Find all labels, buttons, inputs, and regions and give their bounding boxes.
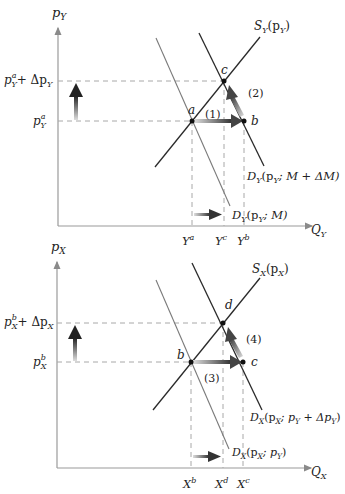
top-panel-y-market: pY paY+ ΔpY paY SY(pY) c a b (1) (2) DY(… xyxy=(4,5,339,248)
point-a xyxy=(190,119,195,124)
bottom-supply-curve xyxy=(153,278,260,410)
step-4-label: (4) xyxy=(246,333,262,346)
top-y-axis-label: pY xyxy=(52,5,67,22)
top-x-axis-label: QY xyxy=(311,223,327,239)
point-b-label-bottom: b xyxy=(177,348,185,362)
point-c-label-top: c xyxy=(221,63,228,77)
top-step2-arrow xyxy=(226,85,244,117)
bottom-panel-x-market: pX pbX+ ΔpX pbX SX(pX) d b c (3) (4) DX(… xyxy=(4,239,341,491)
step-2-label: (2) xyxy=(248,87,264,100)
point-b-top xyxy=(242,119,247,124)
top-price-high-label: paY+ ΔpY xyxy=(4,71,53,89)
diagram-canvas: pY paY+ ΔpY paY SY(pY) c a b (1) (2) DY(… xyxy=(0,0,345,494)
tick-Xd: Xd xyxy=(214,476,228,491)
bottom-price-high-label: pbX+ ΔpX xyxy=(4,313,54,331)
bottom-x-axis-label: QX xyxy=(311,465,327,481)
top-price-rise-arrow xyxy=(69,83,83,120)
step-1-label: (1) xyxy=(205,108,221,121)
point-b-label-top: b xyxy=(251,114,259,128)
top-axis-shift-arrow xyxy=(194,209,222,220)
tick-Yc: Yc xyxy=(215,233,228,248)
top-supply-curve xyxy=(155,37,260,167)
top-supply-label: SY(pY) xyxy=(254,19,290,35)
bottom-price-rise-arrow xyxy=(68,325,82,361)
point-d xyxy=(221,321,226,326)
bottom-y-axis-label: pX xyxy=(51,239,66,256)
bottom-price-low-label: pbX xyxy=(33,353,47,371)
bottom-step4-arrow xyxy=(225,327,243,358)
tick-Yb: Yb xyxy=(237,233,250,248)
point-b-bottom xyxy=(189,360,194,365)
tick-Xb: Xb xyxy=(182,476,196,491)
step-3-label: (3) xyxy=(204,372,220,385)
point-a-label: a xyxy=(188,103,195,117)
bottom-step3-arrow xyxy=(193,355,242,369)
top-demand-old-label: DY(pY; M) xyxy=(231,208,287,224)
top-price-low-label: paY xyxy=(33,112,46,130)
tick-Ya: Ya xyxy=(182,233,195,248)
bottom-demand-old-label: DX(pX; pY) xyxy=(231,446,286,461)
tick-Xc: Xc xyxy=(236,476,250,491)
bottom-demand-old-curve xyxy=(156,280,229,449)
point-c-bottom xyxy=(241,360,246,365)
top-guides xyxy=(58,81,244,226)
point-d-label: d xyxy=(225,298,233,312)
point-c-top xyxy=(222,79,227,84)
bottom-supply-label: SX(pX) xyxy=(252,262,289,278)
bottom-guides xyxy=(57,323,243,468)
top-demand-new-label: DY(pY; M + ΔM) xyxy=(246,169,339,185)
bottom-axis-shift-arrow xyxy=(193,451,221,462)
point-c-label-bottom: c xyxy=(251,355,258,369)
bottom-demand-new-label: DX(pX; pY + ΔpY) xyxy=(249,411,341,426)
